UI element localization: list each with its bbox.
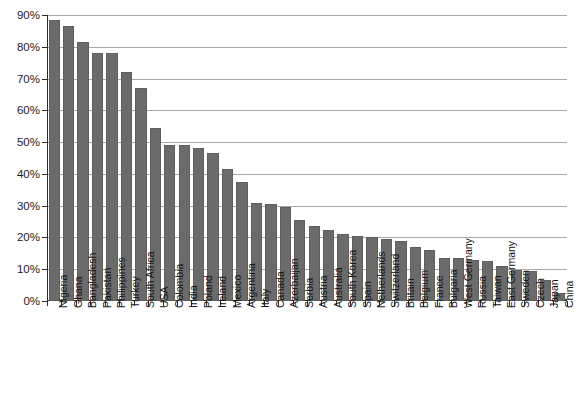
x-tick-label: Serbia [304,278,315,308]
x-tick-label: China [564,281,575,308]
y-tick-label: 30% [17,200,40,212]
bar [49,20,60,301]
x-tick-label: Bulgaria [448,269,459,308]
y-tick-label: 60% [17,104,40,116]
x-tick-label: Nigeria [58,275,69,308]
x-tick-label: Austria [318,275,329,308]
x-tick-label: France [434,275,445,308]
x-tick-label: Turkey [130,276,141,308]
x-tick-label: Britain [405,278,416,308]
x-tick-label: Argentina [246,263,257,308]
x-tick-label: South Africa [145,251,156,308]
x-tick-label: Mexico [232,275,243,308]
x-tick-label: Czech [535,278,546,308]
x-tick-label: USA [159,286,170,308]
x-tick-label: Italy [260,289,271,308]
x-tick-label: Netherlands [376,251,387,308]
y-tick-label: 50% [17,136,40,148]
x-tick-label: Poland [203,275,214,308]
x-tick-label: Belgium [419,270,430,308]
x-tick-label: Japan [549,279,560,308]
x-tick-label: South Korea [347,250,358,308]
x-tick-label: Philippines [116,257,127,308]
x-tick-label: Colombia [174,264,185,308]
y-tick-label: 40% [17,168,40,180]
x-tick-label: Azerbaijan [289,258,300,308]
x-axis-labels: NigeriaGhanaBangladeshPakistanPhilippine… [47,308,567,394]
x-tick-label: Switzerland [390,254,401,308]
x-tick-label: India [188,285,199,308]
x-tick-label: Canada [275,271,286,308]
y-tick-label: 90% [17,9,40,21]
x-tick-label: East Germany [506,241,517,308]
x-tick-label: Spain [362,281,373,308]
x-tick-label: Taiwan [492,275,503,308]
x-tick-label: West Germany [463,238,474,308]
x-tick-label: Ireland [217,276,228,308]
y-tick-label: 10% [17,263,40,275]
x-tick [47,301,48,306]
x-tick-label: Bangladesh [87,253,98,308]
y-tick-label: 0% [23,295,40,307]
x-tick-label: Australia [333,267,344,308]
y-tick-label: 80% [17,41,40,53]
x-tick-label: Sweden [520,270,531,308]
x-tick-label: Pakistan [102,268,113,308]
bar-chart: 0%10%20%30%40%50%60%70%80%90% NigeriaGha… [0,0,578,397]
y-tick-label: 70% [17,73,40,85]
bar [63,26,74,301]
y-tick-label: 20% [17,231,40,243]
x-tick-label: Russia [477,276,488,308]
x-tick-label: Ghana [73,276,84,308]
